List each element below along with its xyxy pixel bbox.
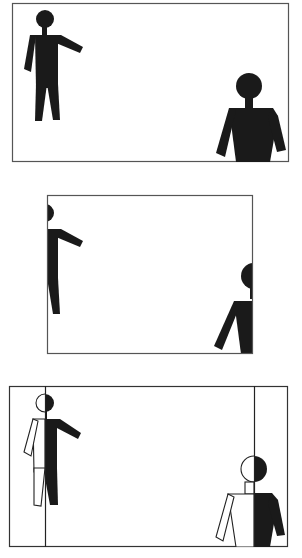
aspect-ratio-diagram	[0, 0, 302, 558]
panel-wide-frame	[13, 4, 289, 163]
panel-cropped-frame	[35, 195, 283, 354]
panel-overlay-comparison	[10, 386, 288, 547]
